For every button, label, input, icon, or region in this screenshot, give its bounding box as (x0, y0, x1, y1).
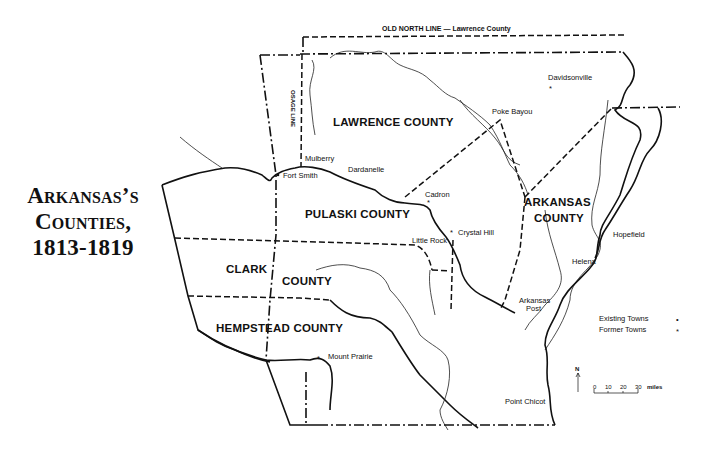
red-river (198, 330, 332, 410)
pulaski-clark-boundary (175, 238, 432, 270)
town-davidsonville: Davidsonville (548, 73, 592, 82)
ouachita-river (330, 300, 478, 428)
town-mulberry: Mulberry (305, 154, 334, 163)
former-town-marker: * (427, 198, 430, 207)
town-fort-smith: Fort Smith (283, 171, 318, 180)
town-poke-bayou: Poke Bayou (492, 107, 532, 116)
county-label-clark-2: COUNTY (282, 275, 332, 287)
clark-hempstead-boundary (188, 296, 330, 300)
county-label-arkansas: ARKANSAS (524, 196, 591, 208)
arkansas-county-map: OLD NORTH LINE — Lawrence County OSAGE L… (0, 0, 713, 451)
existing-town-marker (277, 174, 280, 177)
osage-line-label: OSAGE LINE (290, 90, 296, 127)
county-label-lawrence: LAWRENCE COUNTY (333, 116, 454, 128)
county-label-pulaski: PULASKI COUNTY (305, 208, 410, 220)
little-rock-boundary (451, 240, 453, 310)
legend-former-symbol: * (676, 327, 679, 336)
scale-bar-line (594, 389, 638, 393)
arkansas-river (162, 167, 515, 313)
south-west-line (266, 360, 318, 425)
old-north-line-boundary (303, 35, 625, 37)
river (310, 60, 315, 135)
scale-bar: 0 10 20 30 miles (593, 384, 663, 393)
county-label-arkansas-2: COUNTY (534, 212, 584, 224)
river (180, 137, 222, 168)
east-boundary-tick (612, 107, 680, 108)
st-francis-river (545, 100, 608, 350)
town-point-chicot: Point Chicot (505, 397, 546, 406)
scale-tick-20: 20 (620, 384, 627, 390)
town-arkansas-post-2: Post (526, 304, 542, 313)
scale-tick-30: 30 (635, 384, 642, 390)
county-label-clark: CLARK (226, 263, 268, 275)
west-boundary (260, 55, 276, 360)
arkansas-county-boundary (500, 197, 525, 310)
town-mount-prairie: Mount Prairie (328, 352, 373, 361)
boundary-segment (432, 270, 450, 271)
scale-tick-10: 10 (605, 384, 612, 390)
scale-unit: miles (647, 384, 663, 390)
old-north-line-label: OLD NORTH LINE — Lawrence County (382, 25, 511, 33)
former-town-marker: * (549, 84, 552, 93)
former-town-marker: * (317, 354, 320, 363)
river (429, 270, 435, 315)
legend-existing-symbol: • (676, 315, 679, 324)
north-arrow: N (575, 366, 580, 392)
osage-line-boundary (301, 54, 302, 167)
legend-former-label: Former Towns (599, 325, 647, 334)
map-legend: Existing Towns • Former Towns * (599, 314, 679, 336)
town-little-rock: Little Rock (412, 236, 447, 245)
town-dardanelle: Dardanelle (348, 165, 384, 174)
county-label-hempstead: HEMPSTEAD COUNTY (216, 322, 343, 334)
former-town-marker: * (450, 228, 453, 237)
town-crystal-hill: Crystal Hill (458, 228, 494, 237)
town-helena: Helena (572, 257, 597, 266)
town-hopefield: Hopefield (613, 230, 645, 239)
legend-existing-label: Existing Towns (599, 314, 649, 323)
saline-river (316, 265, 450, 430)
north-label: N (575, 366, 579, 372)
scale-tick-0: 0 (593, 384, 597, 390)
north-boundary (300, 52, 623, 54)
